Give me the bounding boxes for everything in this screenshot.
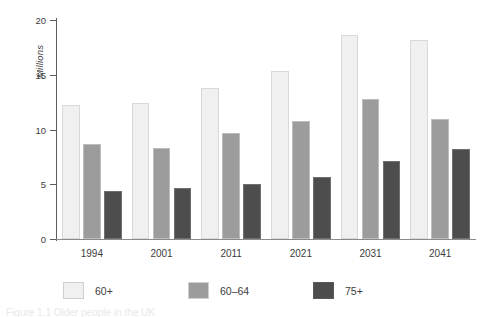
legend-label: 60–64 [220,285,249,297]
x-axis-line [56,239,476,240]
x-tick-label-2001: 2001 [150,248,172,259]
x-tick-label-1994: 1994 [81,248,103,259]
x-tick-label-2041: 2041 [429,248,451,259]
y-tick-label: 5 [6,179,46,190]
figure-caption-partial: Figure 1.1 Older people in the UK [6,308,306,317]
plot-area [56,20,474,239]
y-tick-label: 20 [6,15,46,26]
x-tick-label-2021: 2021 [290,248,312,259]
legend-swatch [313,282,334,299]
bar-75-2041 [452,149,470,239]
bar-75-2001 [174,188,192,239]
bar-6064-2011 [222,133,240,239]
bar-60-1994 [62,105,80,239]
bar-group [341,20,401,239]
x-tick-label-2011: 2011 [220,248,242,259]
y-axis-ticks: 05101520 [0,0,46,317]
bar-75-2031 [383,161,401,239]
bar-6064-2021 [292,121,310,239]
bar-6064-2041 [431,119,449,239]
bar-60-2031 [341,35,359,239]
bar-group [271,20,331,239]
bar-60-2021 [271,71,289,239]
x-tick-label-2031: 2031 [359,248,381,259]
y-tick-label: 15 [6,69,46,80]
legend-swatch [63,282,84,299]
bar-75-2011 [243,184,261,239]
chart-legend: 60+60–6475+ [0,282,490,304]
y-tick-label: 0 [6,234,46,245]
legend-item-6064[interactable]: 60–64 [188,282,249,299]
legend-label: 60+ [95,285,113,297]
legend-item-60[interactable]: 60+ [63,282,113,299]
bar-group [201,20,261,239]
legend-swatch [188,282,209,299]
bar-60-2041 [410,40,428,239]
bar-60-2011 [201,88,219,239]
bar-60-2001 [132,103,150,239]
bar-group [410,20,470,239]
bar-75-2021 [313,177,331,239]
bar-75-1994 [104,191,122,239]
bar-6064-2001 [153,148,171,239]
y-tick-mark [50,239,56,240]
bar-group [62,20,122,239]
bar-group [132,20,192,239]
bar-6064-1994 [83,144,101,239]
y-tick-label: 10 [6,124,46,135]
figure-caption-text: Figure 1.1 Older people in the UK [6,308,306,317]
legend-item-75[interactable]: 75+ [313,282,363,299]
figure-container: Millions 05101520 1994200120112021203120… [0,0,490,317]
bar-6064-2031 [362,99,380,239]
legend-label: 75+ [345,285,363,297]
